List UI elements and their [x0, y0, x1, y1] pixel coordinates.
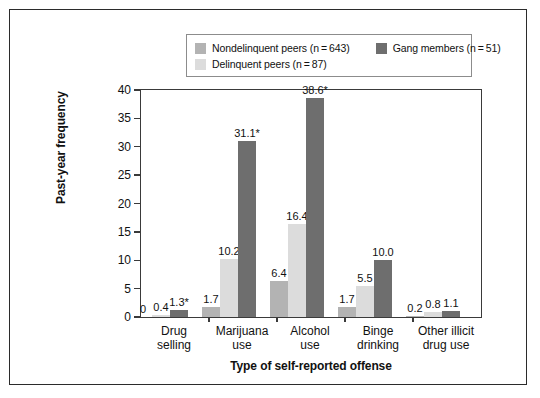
x-axis-category-line: drug use	[412, 338, 480, 352]
bar[interactable]: 6.4	[270, 281, 288, 317]
x-axis-tick	[208, 317, 209, 322]
bar[interactable]: 1.1	[442, 311, 460, 317]
chart-legend: Nondelinquent peers (n = 643) Gang membe…	[186, 34, 472, 77]
bar-value-label: 31.1*	[234, 127, 260, 140]
x-axis-category-line: Marijuana	[208, 324, 276, 338]
x-axis-category-label: Alcoholuse	[276, 324, 344, 352]
x-axis-category-line: use	[208, 338, 276, 352]
figure-frame: Nondelinquent peers (n = 643) Gang membe…	[9, 9, 527, 385]
legend-swatch-gang-members	[376, 43, 387, 54]
bar-value-label: 1.1	[443, 297, 458, 310]
y-axis-tick-label: 20	[118, 197, 131, 211]
y-axis-tick-label: 35	[118, 111, 131, 125]
bar[interactable]: 1.7	[338, 307, 356, 317]
x-axis-category-label: Other illicitdrug use	[412, 324, 480, 352]
bar[interactable]: 1.7	[202, 307, 220, 317]
x-axis-category-line: use	[276, 338, 344, 352]
y-axis-tick-label: 5	[124, 282, 131, 296]
legend-item-gang-members: Gang members (n = 51)	[376, 42, 501, 54]
bar-value-label: 1.3*	[169, 296, 189, 309]
bars-layer: 00.41.3*1.710.231.1*6.416.438.6*1.75.510…	[141, 90, 481, 317]
bar[interactable]: 10.0	[374, 260, 392, 317]
bar-value-label: 0.2	[407, 302, 422, 315]
x-axis-category-line: Drug	[140, 324, 208, 338]
bar[interactable]: 31.1*	[238, 141, 256, 317]
legend-swatch-delinquent-peers	[195, 59, 206, 70]
bar-value-label: 0.4	[153, 301, 168, 314]
bar-value-label: 38.6*	[302, 84, 328, 97]
bar-group: 1.75.510.0	[338, 90, 392, 317]
x-axis-tick	[276, 317, 277, 322]
x-axis-category-line: drinking	[344, 338, 412, 352]
legend-row-1: Nondelinquent peers (n = 643) Gang membe…	[195, 40, 463, 56]
x-axis-category-line: Other illicit	[412, 324, 480, 338]
bar-group: 1.710.231.1*	[202, 90, 256, 317]
legend-row-2: Delinquent peers (n = 87)	[195, 56, 463, 72]
legend-item-nondelinquent-peers: Nondelinquent peers (n = 643)	[195, 42, 350, 54]
bar-group: 6.416.438.6*	[270, 90, 324, 317]
legend-item-delinquent-peers: Delinquent peers (n = 87)	[195, 58, 327, 70]
bar-value-label: 10.0	[372, 246, 393, 259]
x-axis-category-line: selling	[140, 338, 208, 352]
x-axis-category-line: Alcohol	[276, 324, 344, 338]
bar-value-label: 1.7	[203, 293, 218, 306]
legend-label-nondelinquent-peers: Nondelinquent peers (n = 643)	[212, 42, 350, 54]
bar-value-label: 0.8	[425, 298, 440, 311]
x-axis-title: Type of self-reported offense	[140, 359, 482, 373]
y-axis-tick-label: 30	[118, 140, 131, 154]
bar-group: 00.41.3*	[134, 90, 188, 317]
bar[interactable]: 0.4	[152, 315, 170, 317]
y-axis-tick-label: 0	[124, 310, 131, 324]
bar[interactable]: 0.2	[406, 316, 424, 317]
x-axis-category-label: Drugselling	[140, 324, 208, 352]
legend-label-delinquent-peers: Delinquent peers (n = 87)	[212, 58, 327, 70]
y-axis-tick-label: 15	[118, 225, 131, 239]
bar-value-label: 16.4	[286, 210, 307, 223]
x-axis-tick	[344, 317, 345, 322]
x-axis-tick	[412, 317, 413, 322]
bar[interactable]: 38.6*	[306, 98, 324, 317]
bar-value-label: 6.4	[271, 267, 286, 280]
x-axis-category-label: Bingedrinking	[344, 324, 412, 352]
bar-value-label: 1.7	[339, 293, 354, 306]
bar[interactable]: 1.3*	[170, 310, 188, 317]
bar-value-label: 5.5	[357, 272, 372, 285]
bar[interactable]: 0.8	[424, 312, 442, 317]
bar[interactable]: 10.2	[220, 259, 238, 317]
y-axis-tick-label: 10	[118, 253, 131, 267]
y-axis-title: Past-year frequency	[54, 91, 68, 204]
x-axis-category-label: Marijuanause	[208, 324, 276, 352]
bar-value-label: 10.2	[218, 245, 239, 258]
bar[interactable]: 5.5	[356, 286, 374, 317]
y-axis-tick-label: 40	[118, 83, 131, 97]
legend-swatch-nondelinquent-peers	[195, 43, 206, 54]
plot-area: 0510152025303540 00.41.3*1.710.231.1*6.4…	[140, 89, 482, 318]
bar-group: 0.20.81.1	[406, 90, 460, 317]
bar[interactable]: 16.4	[288, 224, 306, 317]
y-axis-tick-label: 25	[118, 168, 131, 182]
legend-label-gang-members: Gang members (n = 51)	[393, 42, 501, 54]
bar-value-label: 0	[140, 303, 146, 316]
x-axis-category-line: Binge	[344, 324, 412, 338]
